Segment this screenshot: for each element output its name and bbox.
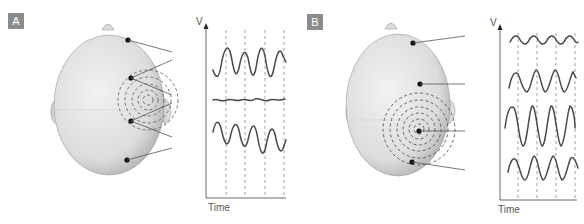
panel-b-trace-2 — [509, 70, 576, 92]
nose-icon — [102, 24, 114, 30]
figure: A B V Time V Time — [0, 0, 584, 224]
panel-a-trace-2 — [213, 99, 285, 101]
panel-b-plot — [498, 24, 579, 200]
panel-a-head — [51, 24, 178, 175]
y-axis-arrow-icon — [204, 23, 209, 29]
panel-b-trace-4 — [508, 156, 578, 180]
panel-b-head — [346, 23, 465, 176]
nose-icon — [385, 23, 397, 29]
panel-a-trace-1 — [213, 48, 286, 76]
y-axis-arrow-icon — [498, 24, 503, 30]
panel-a-plot — [204, 23, 287, 198]
panel-b-trace-1 — [510, 36, 578, 44]
diagram-svg — [0, 0, 584, 224]
panel-a-trace-3 — [213, 122, 286, 153]
panel-b-trace-3 — [505, 106, 575, 146]
panel-a-time-markers — [226, 30, 284, 198]
